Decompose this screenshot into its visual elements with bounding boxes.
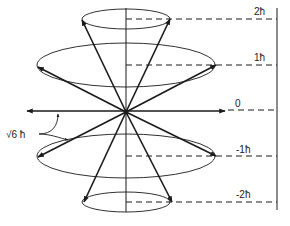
vector-m2-right bbox=[126, 19, 170, 112]
level-label-0: 0 bbox=[235, 98, 241, 109]
origin-dot bbox=[124, 110, 128, 114]
vector-m1-left bbox=[38, 67, 126, 112]
level-label-neg1: -1ħ bbox=[236, 144, 250, 155]
vector-m-2-left bbox=[84, 112, 126, 202]
magnitude-label: √6 ħ bbox=[6, 129, 25, 140]
vector-m1-right bbox=[126, 65, 216, 112]
level-label-1: 1ħ bbox=[254, 52, 265, 63]
vector-m-2-right bbox=[126, 112, 172, 202]
level-label-neg2: -2ħ bbox=[236, 189, 250, 200]
angular-momentum-diagram: 2ħ 1ħ 0 -1ħ -2ħ √6 ħ bbox=[0, 0, 290, 226]
magnitude-pointer bbox=[39, 114, 68, 140]
level-label-2: 2ħ bbox=[254, 6, 265, 17]
vector-m2-left bbox=[82, 20, 126, 112]
